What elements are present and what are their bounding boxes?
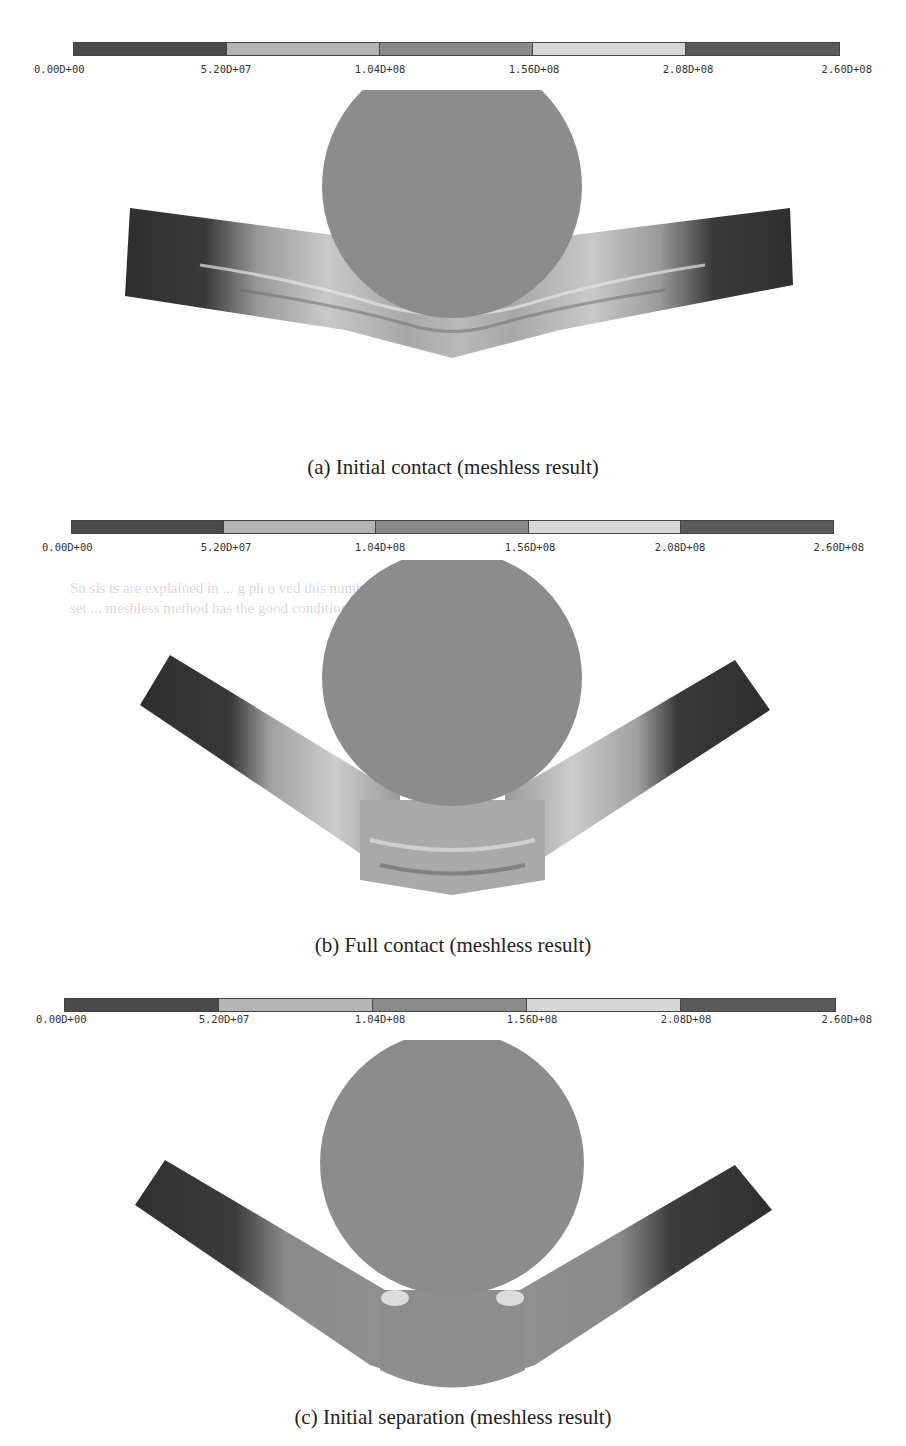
tick-label: 2.60D+08 [821,63,872,75]
colorbar-segment [681,999,835,1011]
colorbar-segment [373,999,527,1011]
panel-a: 0.00D+00 5.20D+07 1.04D+08 1.56D+08 2.08… [0,0,906,500]
tick-label: 1.04D+08 [355,541,406,553]
colorbar-b [71,520,834,534]
simulation-image-c [0,1040,906,1400]
colorbar-segment [219,999,373,1011]
colorbar-segment [681,521,833,533]
colorbar-segment [533,43,686,55]
colorbar-segment [686,43,839,55]
colorbar-segment [65,999,219,1011]
tick-label: 1.04D+08 [355,63,406,75]
panel-c: 0.00D+00 5.20D+07 1.04D+08 1.56D+08 2.08… [0,980,906,1446]
colorbar-segment [529,521,681,533]
tick-label: 5.20D+07 [201,63,252,75]
tick-label: 2.60D+08 [813,541,864,553]
tick-label: 1.04D+08 [355,1013,406,1025]
tick-label: 5.20D+07 [201,541,252,553]
colorbar-ticks-a: 0.00D+00 5.20D+07 1.04D+08 1.56D+08 2.08… [0,63,906,77]
tick-label: 0.00D+00 [42,541,93,553]
tick-label: 1.56D+08 [505,541,556,553]
tick-label: 5.20D+07 [199,1013,250,1025]
simulation-image-a [0,90,906,450]
tick-label: 2.60D+08 [821,1013,872,1025]
tick-label: 2.08D+08 [655,541,706,553]
colorbar-ticks-c: 0.00D+00 5.20D+07 1.04D+08 1.56D+08 2.08… [0,1013,906,1027]
tick-label: 0.00D+00 [36,1013,87,1025]
colorbar-segment [72,521,224,533]
colorbar-ticks-b: 0.00D+00 5.20D+07 1.04D+08 1.56D+08 2.08… [0,541,906,555]
cylinder-shape [320,1040,584,1295]
colorbar-segment [227,43,380,55]
caption-b: (b) Full contact (meshless result) [0,933,906,958]
colorbar-segment [224,521,376,533]
tick-label: 1.56D+08 [507,1013,558,1025]
colorbar-segment [527,999,681,1011]
panel-b: 0.00D+00 5.20D+07 1.04D+08 1.56D+08 2.08… [0,500,906,980]
tick-label: 2.08D+08 [661,1013,712,1025]
colorbar-a [73,42,840,56]
tick-label: 2.08D+08 [663,63,714,75]
colorbar-segment [380,43,533,55]
colorbar-segment [74,43,227,55]
cylinder-shape [322,560,582,806]
tick-label: 0.00D+00 [34,63,85,75]
colorbar-c [64,998,836,1012]
simulation-image-b [0,560,906,900]
colorbar-segment [376,521,528,533]
tick-label: 1.56D+08 [509,63,560,75]
caption-c: (c) Initial separation (meshless result) [0,1405,906,1430]
caption-a: (a) Initial contact (meshless result) [0,455,906,480]
